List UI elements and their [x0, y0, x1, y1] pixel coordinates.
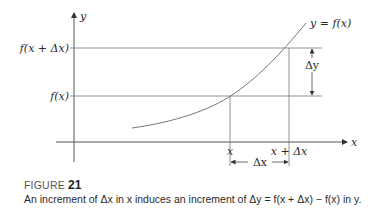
x-axis-label: x — [351, 136, 358, 149]
curve-f — [132, 23, 306, 128]
figure-caption: An increment of Δx in x induces an incre… — [24, 193, 364, 206]
figure-word: FIGURE — [24, 179, 65, 191]
curve-label: y = f(x) — [309, 17, 351, 30]
tick-label-f-x: f(x) — [49, 90, 69, 103]
figure-number: 21 — [68, 178, 82, 192]
delta-y-label: Δy — [305, 59, 320, 72]
tick-label-x: x — [227, 145, 234, 158]
figure-title: FIGURE 21 — [24, 179, 82, 192]
tick-label-f-x-plus-dx: f(x + Δx) — [19, 42, 69, 55]
delta-x-label: Δx — [253, 156, 268, 169]
y-axis-label: y — [79, 10, 87, 23]
tick-label-x-plus-dx: x + Δx — [271, 145, 308, 158]
